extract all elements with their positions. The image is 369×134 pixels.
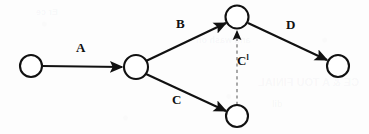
node-upper — [226, 6, 249, 29]
edge-label-c-prime-superscript: l — [246, 53, 248, 62]
edge-b — [146, 23, 226, 61]
edge-label-c-prime: Cl — [237, 54, 249, 67]
diagram-canvas: CE & A TOU FINIAL and wash on dil Er ce — [0, 0, 369, 134]
node-lower — [226, 105, 248, 127]
edge-label-c: C — [172, 93, 181, 106]
node-end — [327, 55, 349, 77]
edge-group — [42, 23, 327, 111]
edge-a — [42, 66, 122, 67]
edge-label-c-prime-base: C — [237, 53, 246, 68]
edge-label-d: D — [286, 18, 295, 31]
node-start — [20, 55, 42, 77]
edge-label-b: B — [176, 17, 185, 30]
edge-c — [146, 74, 226, 111]
edge-label-a: A — [76, 41, 85, 54]
node-junction — [124, 55, 148, 79]
